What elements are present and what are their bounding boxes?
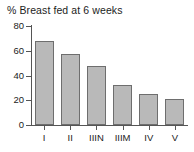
x-axis-tick-label: V xyxy=(159,133,191,143)
y-axis-tick xyxy=(26,51,31,52)
y-axis-tick xyxy=(26,26,31,27)
x-axis-tick xyxy=(96,126,97,130)
bar-chart-figure: % Breast fed at 6 weeks 020406080 IIIIII… xyxy=(0,0,194,152)
bar xyxy=(165,99,184,125)
bar xyxy=(87,66,106,125)
y-axis-tick xyxy=(26,76,31,77)
plot-area: 020406080 IIIIIINIIIMIVV xyxy=(0,0,194,152)
y-axis-tick-label: 0 xyxy=(2,120,24,130)
bar xyxy=(35,41,54,125)
x-axis-tick xyxy=(123,126,124,130)
x-axis-tick xyxy=(44,126,45,130)
x-axis-tick xyxy=(70,126,71,130)
y-axis-tick-label: 60 xyxy=(2,46,24,56)
y-axis-line xyxy=(31,25,32,126)
y-axis-tick-label: 20 xyxy=(2,95,24,105)
y-axis-tick-label: 40 xyxy=(2,71,24,81)
bar xyxy=(61,54,80,125)
y-axis-tick xyxy=(26,100,31,101)
y-axis-tick xyxy=(26,125,31,126)
bar xyxy=(113,85,132,125)
x-axis-tick xyxy=(175,126,176,130)
bar xyxy=(139,94,158,125)
y-axis-tick-label: 80 xyxy=(2,21,24,31)
x-axis-tick xyxy=(149,126,150,130)
x-axis-line xyxy=(31,125,188,126)
